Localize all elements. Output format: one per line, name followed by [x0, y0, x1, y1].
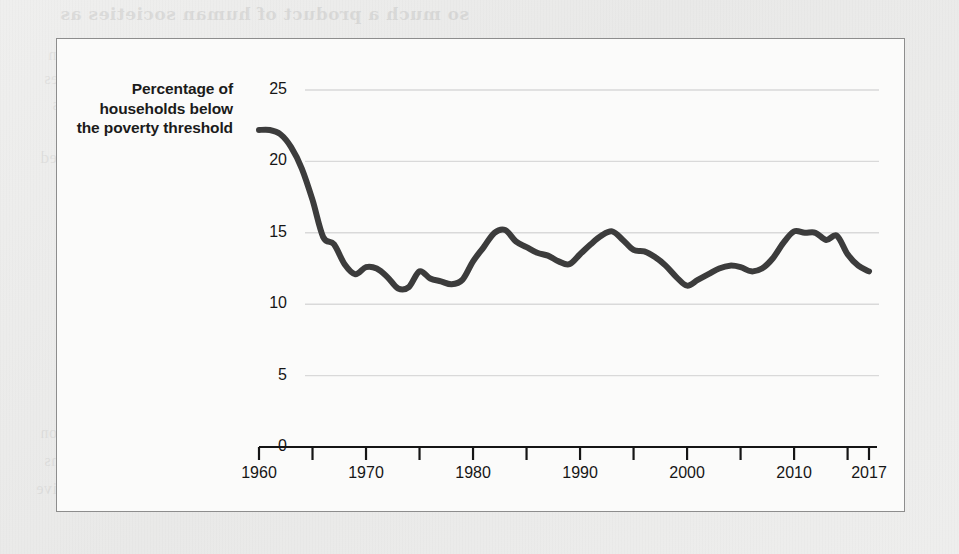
y-axis-title: Percentage of households below the pover… — [73, 79, 233, 138]
x-tick-label-1970: 1970 — [336, 464, 396, 482]
y-tick-label-15: 15 — [253, 223, 287, 241]
y-tick-label-10: 10 — [253, 294, 287, 312]
x-tick-label-1980: 1980 — [443, 464, 503, 482]
y-tick-label-20: 20 — [253, 151, 287, 169]
x-tick-label-1990: 1990 — [550, 464, 610, 482]
x-tick-label-2010: 2010 — [764, 464, 824, 482]
figure-frame: Percentage of households below the pover… — [56, 38, 905, 512]
x-tick-label-1960: 1960 — [229, 464, 289, 482]
y-tick-label-0: 0 — [253, 437, 287, 455]
ghost-text-line-1: so much a product of human societies as — [60, 4, 469, 24]
poverty-rate-line-chart: Percentage of households below the pover… — [57, 39, 906, 513]
x-tick-label-2000: 2000 — [657, 464, 717, 482]
y-tick-label-25: 25 — [253, 80, 287, 98]
poverty-rate-data-line — [259, 130, 869, 290]
y-tick-label-5: 5 — [253, 366, 287, 384]
x-tick-label-2017: 2017 — [839, 464, 899, 482]
x-tick-marks-group — [259, 447, 869, 460]
